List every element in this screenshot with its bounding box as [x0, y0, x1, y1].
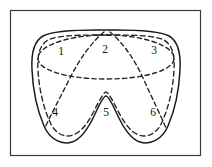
region-label-2: 2 — [102, 43, 108, 55]
region-label-4: 4 — [52, 106, 58, 118]
region-label-3: 3 — [151, 44, 157, 56]
region-label-6: 6 — [150, 106, 156, 118]
region-label-5: 5 — [103, 106, 109, 118]
figure-container: 1 2 3 4 5 6 — [0, 0, 212, 167]
region-label-1: 1 — [58, 45, 64, 57]
region-partition-figure: 1 2 3 4 5 6 — [0, 0, 212, 167]
